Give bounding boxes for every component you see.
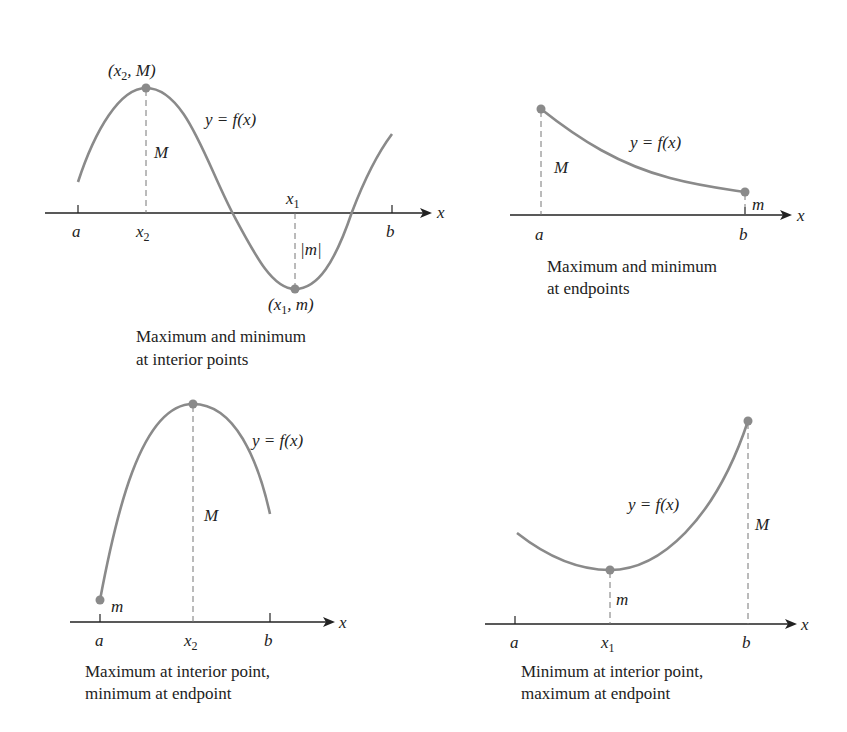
x-axis-label: x	[338, 613, 347, 632]
function-label: y = f(x)	[250, 431, 303, 450]
panel-endpoints-both: y = f(x) M m a b x Maximum and minimum a…	[510, 105, 805, 299]
M-label: M	[153, 143, 169, 162]
caption-line-2: at interior points	[136, 350, 248, 369]
max-point-label: (x2, M)	[108, 61, 156, 83]
caption-line-2: minimum at endpoint	[85, 684, 232, 703]
b-label: b	[264, 631, 273, 650]
x2-label: x2	[183, 631, 198, 653]
min-point-dot	[96, 596, 105, 605]
M-label: M	[203, 506, 219, 525]
min-point-dot	[291, 285, 300, 294]
function-label: y = f(x)	[626, 495, 679, 514]
min-point-dot	[606, 566, 615, 575]
b-label: b	[739, 225, 748, 244]
max-point-dot	[537, 105, 546, 114]
extreme-values-figure: (x2, M) y = f(x) M x1 a x2 b x |m| (x1, …	[0, 0, 847, 732]
caption-line-1: Maximum and minimum	[136, 327, 306, 346]
caption-line-2: at endpoints	[547, 279, 630, 298]
min-point-label: (x1, m)	[268, 295, 314, 317]
function-label: y = f(x)	[628, 133, 681, 152]
b-label: b	[386, 222, 395, 241]
caption-line-2: maximum at endpoint	[521, 684, 670, 703]
M-label: M	[754, 515, 770, 534]
x-axis-label: x	[436, 203, 445, 222]
function-curve	[100, 404, 270, 600]
caption-line-1: Minimum at interior point,	[521, 662, 703, 681]
a-label: a	[535, 225, 544, 244]
caption-line-1: Maximum and minimum	[547, 257, 717, 276]
abs-m-label: |m|	[300, 240, 322, 259]
x1-label: x1	[285, 189, 300, 211]
m-label: m	[752, 195, 764, 214]
m-label: m	[111, 597, 123, 616]
min-point-dot	[741, 188, 750, 197]
panel-max-interior-min-endpoint: y = f(x) M m a x2 b x Maximum at interio…	[70, 400, 347, 704]
max-point-dot	[189, 400, 198, 409]
x-axis-label: x	[796, 206, 805, 225]
b-label: b	[742, 633, 751, 652]
M-label: M	[553, 158, 569, 177]
max-point-dot	[142, 84, 151, 93]
panel-min-interior-max-endpoint: y = f(x) M m a x1 b x Minimum at interio…	[485, 417, 809, 704]
x2-label: x2	[135, 222, 150, 244]
panel-interior-both: (x2, M) y = f(x) M x1 a x2 b x |m| (x1, …	[45, 61, 445, 369]
max-point-dot	[744, 417, 753, 426]
function-label: y = f(x)	[203, 110, 256, 129]
caption-line-1: Maximum at interior point,	[85, 662, 270, 681]
a-label: a	[72, 222, 81, 241]
x1-label: x1	[600, 633, 615, 655]
a-label: a	[95, 631, 104, 650]
x-axis-label: x	[800, 615, 809, 634]
a-label: a	[510, 633, 519, 652]
m-label: m	[616, 590, 628, 609]
